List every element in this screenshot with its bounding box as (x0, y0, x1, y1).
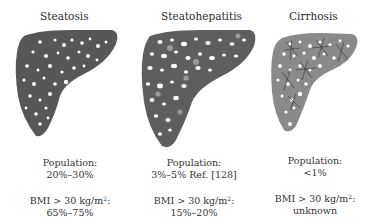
bmi-label-text: BMI > 30 kg/m (154, 195, 228, 206)
bmi-colon: : (107, 195, 110, 206)
bmi-sup: 2 (227, 195, 231, 202)
stage-title-cirrhosis: Cirrhosis (289, 10, 338, 22)
stage-title-steatosis: Steatosis (40, 10, 89, 22)
population-label: Population: (265, 155, 365, 167)
bmi-label-text: BMI > 30 kg/m (275, 193, 349, 204)
population-value: <1% (265, 167, 365, 179)
population-value: 20%–30% (20, 169, 120, 181)
bmi-label: BMI > 30 kg/m2: (255, 193, 369, 205)
cirrhosis-liver-icon (271, 33, 357, 131)
steatosis-liver-icon (16, 30, 118, 136)
bmi-sup: 2 (348, 193, 352, 200)
bmi-colon: : (352, 193, 355, 204)
bmi-label-text: BMI > 30 kg/m (30, 195, 104, 206)
steatohepatitis-liver-icon (142, 30, 256, 147)
liver-illustrations (0, 0, 369, 224)
bmi-label: BMI > 30 kg/m2: (134, 195, 254, 207)
population-value: 3%–5% Ref. [128] (134, 169, 254, 181)
stage-title-steatohepatitis: Steatohepatitis (161, 10, 242, 22)
population-label: Population: (139, 157, 249, 169)
bmi-value: unknown (265, 205, 365, 217)
bmi-colon: : (231, 195, 234, 206)
population-label: Population: (20, 157, 120, 169)
bmi-value: 65%–75% (20, 207, 120, 219)
bmi-sup: 2 (103, 195, 107, 202)
bmi-label: BMI > 30 kg/m2: (10, 195, 130, 207)
bmi-value: 15%–20% (144, 207, 244, 219)
